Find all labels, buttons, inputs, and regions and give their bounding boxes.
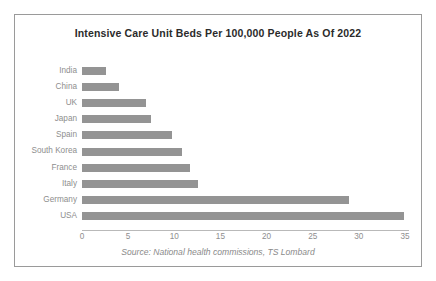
bar-row: Japan — [15, 111, 423, 127]
x-axis-line — [82, 230, 409, 231]
bar-track — [82, 79, 405, 95]
x-tick-label: 10 — [170, 233, 179, 241]
bar-track — [82, 111, 405, 127]
x-tick-label: 25 — [308, 233, 317, 241]
bar-track — [82, 143, 405, 159]
category-label: UK — [15, 99, 77, 107]
bar — [82, 99, 146, 107]
bar-row: Spain — [15, 127, 423, 143]
category-label: South Korea — [15, 147, 77, 155]
x-tick-label: 0 — [80, 233, 85, 241]
bar-track — [82, 176, 405, 192]
bar-row: South Korea — [15, 143, 423, 159]
bar-row: UK — [15, 95, 423, 111]
category-label: Germany — [15, 196, 77, 204]
bar-row: Germany — [15, 192, 423, 208]
bar — [82, 115, 151, 123]
category-label: China — [15, 83, 77, 91]
bar — [82, 164, 190, 172]
category-label: Spain — [15, 131, 77, 139]
bar — [82, 212, 404, 220]
chart-frame: Intensive Care Unit Beds Per 100,000 Peo… — [14, 14, 422, 267]
bar-row: Italy — [15, 176, 423, 192]
category-label: India — [15, 67, 77, 75]
plot-area: IndiaChinaUKJapanSpainSouth KoreaFranceI… — [15, 63, 423, 238]
x-tick-label: 30 — [354, 233, 363, 241]
category-label: Italy — [15, 180, 77, 188]
bar-track — [82, 127, 405, 143]
bar-rows: IndiaChinaUKJapanSpainSouth KoreaFranceI… — [15, 63, 423, 224]
bar-row: France — [15, 160, 423, 176]
category-label: France — [15, 164, 77, 172]
bar-track — [82, 160, 405, 176]
bar-row: China — [15, 79, 423, 95]
x-tick-label: 35 — [400, 233, 409, 241]
bar — [82, 67, 106, 75]
bar — [82, 83, 119, 91]
bar — [82, 180, 198, 188]
source-note: Source: National health commissions, TS … — [15, 247, 421, 257]
x-tick-label: 15 — [216, 233, 225, 241]
x-tick-label: 5 — [126, 233, 131, 241]
bar-row: USA — [15, 208, 423, 224]
category-label: Japan — [15, 115, 77, 123]
bar-track — [82, 192, 405, 208]
bar-row: India — [15, 63, 423, 79]
bar-track — [82, 95, 405, 111]
bar-track — [82, 208, 405, 224]
bar-track — [82, 63, 405, 79]
chart-title: Intensive Care Unit Beds Per 100,000 Peo… — [15, 27, 421, 39]
category-label: USA — [15, 212, 77, 220]
bar — [82, 148, 182, 156]
bar — [82, 196, 349, 204]
bar — [82, 131, 172, 139]
x-tick-label: 20 — [262, 233, 271, 241]
